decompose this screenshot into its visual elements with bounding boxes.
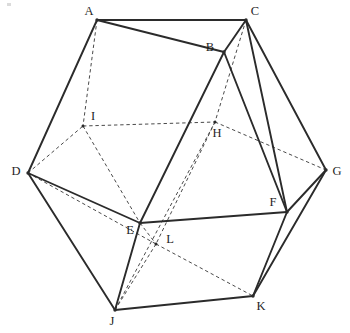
hidden-edge-jh [115, 122, 215, 310]
vertex-label-f: F [270, 195, 277, 209]
vertex-point-c [244, 18, 247, 21]
vertex-labels-group: ABCDEFGHIJKL [11, 4, 341, 328]
hidden-edge-hl [156, 122, 215, 244]
edge-fg [287, 170, 326, 212]
vertex-point-j [113, 308, 116, 311]
edge-bc [224, 20, 246, 52]
polyhedron-canvas: ABCDEFGHIJKL [0, 0, 350, 333]
hidden-edge-el [140, 223, 156, 244]
hidden-edge-ie [83, 126, 140, 223]
vertex-point-k [251, 294, 254, 297]
vertex-label-d: D [11, 164, 20, 178]
edge-fk [253, 212, 287, 296]
hidden-edge-ih [83, 122, 215, 126]
vertex-point-l [155, 243, 158, 246]
hidden-edge-hg [215, 122, 326, 170]
vertex-label-k: K [256, 299, 265, 313]
visible-edges-group [28, 20, 326, 310]
vertex-dots-group [26, 18, 327, 311]
vertex-label-h: H [212, 126, 221, 140]
vertex-label-l: L [166, 232, 174, 246]
vertex-point-f [285, 210, 288, 213]
edge-ef [140, 212, 287, 223]
vertex-point-d [26, 171, 29, 174]
edge-dj [28, 173, 115, 310]
corner-artifact-speck [7, 3, 11, 6]
vertex-label-g: G [332, 164, 341, 178]
vertex-label-i: I [91, 109, 95, 123]
vertex-label-j: J [110, 314, 115, 328]
edge-bf [224, 52, 287, 212]
vertex-point-i [82, 125, 85, 128]
polyhedron-diagram: ABCDEFGHIJKL [0, 0, 350, 333]
edge-cf [246, 20, 287, 212]
edge-gk [253, 170, 326, 296]
edge-jk [115, 296, 253, 310]
hidden-edge-di [28, 126, 83, 173]
vertex-point-a [95, 18, 98, 21]
hidden-edges-group [28, 20, 326, 310]
vertex-label-e: E [126, 223, 134, 237]
hidden-edge-lj [115, 244, 156, 310]
vertex-point-e [138, 221, 141, 224]
vertex-label-c: C [251, 4, 259, 18]
vertex-label-b: B [206, 40, 214, 54]
vertex-label-a: A [84, 4, 93, 18]
vertex-point-h [214, 121, 217, 124]
hidden-edge-lk [156, 244, 253, 296]
edge-be [140, 52, 224, 223]
vertex-point-g [324, 168, 327, 171]
vertex-point-b [222, 50, 225, 53]
edge-cg [246, 20, 326, 170]
